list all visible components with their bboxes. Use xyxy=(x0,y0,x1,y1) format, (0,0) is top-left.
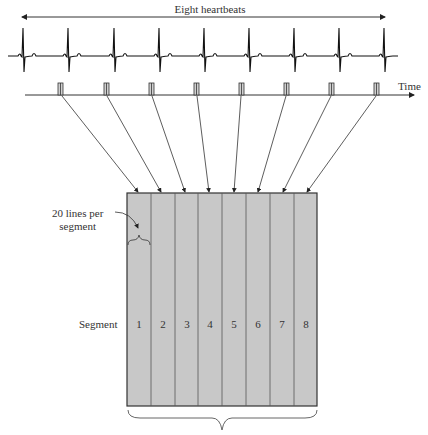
lines-per-segment-label: 20 lines per segment xyxy=(52,207,103,233)
segment-number: 6 xyxy=(246,318,270,330)
segment-number: 3 xyxy=(175,318,199,330)
segment-number: 8 xyxy=(294,318,318,330)
annotation-line-2: segment xyxy=(52,220,103,233)
segment-row-label: Segment xyxy=(79,318,118,330)
segment-number: 2 xyxy=(151,318,175,330)
segment-number: 5 xyxy=(222,318,246,330)
beat-markers xyxy=(58,83,379,95)
annotation-line-1: 20 lines per xyxy=(52,207,103,220)
time-axis-label: Time xyxy=(398,80,421,92)
bottom-brace xyxy=(128,410,317,430)
mapping-arrows xyxy=(62,96,376,192)
diagram-title: Eight heartbeats xyxy=(0,3,420,15)
segment-number: 4 xyxy=(198,318,222,330)
segment-number: 1 xyxy=(127,318,151,330)
segment-number: 7 xyxy=(270,318,294,330)
ecg-trace xyxy=(8,28,398,72)
segment-block xyxy=(127,193,317,406)
